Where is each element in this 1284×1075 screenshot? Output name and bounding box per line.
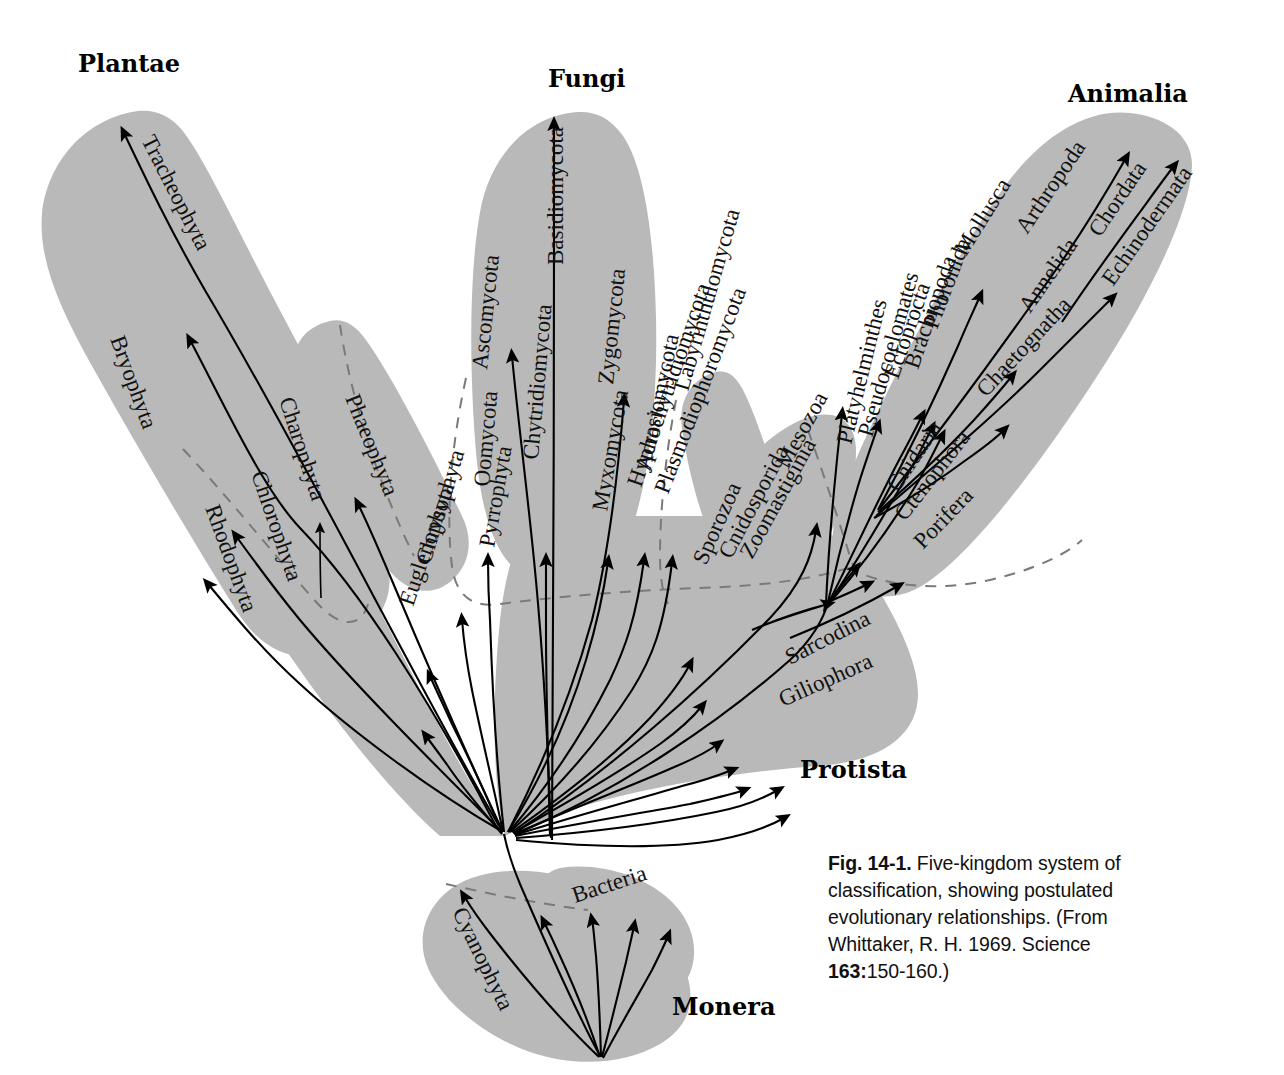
- kingdom-label-monera: Monera: [672, 992, 776, 1021]
- kingdom-label-animalia: Animalia: [1067, 79, 1188, 108]
- kingdom-label-plantae: Plantae: [78, 49, 180, 78]
- caption-text-part-2: 150-160.): [867, 960, 950, 982]
- caption-figure-number: Fig. 14-1.: [828, 852, 912, 874]
- taxon-label: Basidiomycota: [543, 127, 568, 265]
- kingdom-label-protista: Protista: [800, 755, 907, 784]
- caption-volume: 163:: [828, 960, 867, 982]
- kingdom-label-fungi: Fungi: [548, 64, 625, 93]
- figure-root: Tracheophyta Bryophyta Charophyta Phaeop…: [0, 0, 1284, 1075]
- figure-caption: Fig. 14-1. Five-kingdom system of classi…: [828, 850, 1173, 985]
